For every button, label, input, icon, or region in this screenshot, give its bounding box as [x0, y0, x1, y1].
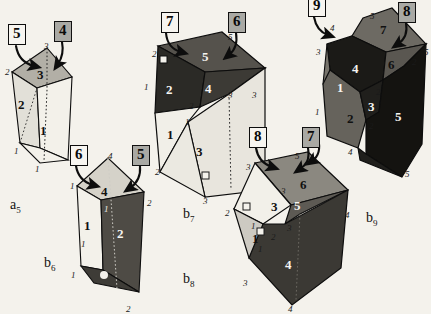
b6-edge-number-5: 1 — [71, 271, 76, 280]
b9-edge-number-0: 5 — [370, 12, 375, 21]
b6-face-number-2: 2 — [117, 227, 124, 240]
b8-edge-number-9: 3 — [243, 279, 248, 288]
b8-face-number-4: 4 — [285, 258, 292, 271]
b8-edge-number-0: 5 — [295, 152, 300, 161]
b8-edge-number-3: 2 — [225, 209, 230, 218]
a5-face-number-1: 1 — [40, 124, 47, 137]
b7-edge-number-6: 1 — [185, 118, 190, 127]
b7-face-number-5: 5 — [202, 50, 209, 63]
a5-edge-number-3: 1 — [35, 165, 40, 174]
a5-face-number-3: 3 — [37, 68, 44, 81]
b7-edge-number-1: 2 — [152, 50, 157, 59]
b7-face-number-3: 3 — [196, 145, 203, 158]
b9-face-number-5: 5 — [395, 110, 402, 123]
b8-edge-number-2: 3 — [281, 187, 286, 196]
b8-edge-number-7: 2 — [271, 233, 276, 242]
b8-edge-number-5: 3 — [287, 224, 292, 233]
b9-edge-number-3: 5 — [424, 48, 429, 57]
b8-face-number-6: 6 — [300, 178, 307, 191]
b7-edge-number-7: 2 — [155, 168, 160, 177]
b7-edge-number-0: 5 — [228, 33, 233, 42]
b8-face-number-3: 3 — [271, 200, 278, 213]
a5-face-number-2: 2 — [18, 98, 25, 111]
b9-face-number-3: 3 — [368, 100, 375, 113]
b6-face-number-1: 1 — [84, 219, 91, 232]
b8-edge-number-10: 4 — [288, 305, 293, 314]
b7-face-number-2: 2 — [166, 83, 173, 96]
b9-edge-number-7: 2 — [369, 122, 374, 131]
b9-face-number-1: 1 — [337, 81, 344, 94]
b9-face-number-2: 2 — [347, 112, 354, 125]
b8-edge-number-6: 1 — [251, 222, 256, 231]
b9-edge-number-4: 2 — [412, 58, 417, 67]
a5-edge-number-1: 2 — [5, 68, 10, 77]
b6-edge-number-6: 2 — [126, 305, 131, 314]
b6-edge-number-3: 1 — [104, 205, 109, 214]
b6-edge-number-2: 2 — [147, 199, 152, 208]
b9-edge-number-1: 4 — [330, 24, 335, 33]
b7-edge-number-3: 3 — [228, 91, 233, 100]
b9-edge-number-5: 2 — [376, 88, 381, 97]
b7-face-number-4: 4 — [205, 82, 212, 95]
b6-edge-number-1: 1 — [70, 182, 75, 191]
b9-face-number-7: 7 — [380, 23, 387, 36]
a5-edge-number-0: 3 — [44, 42, 49, 51]
b7-face-number-1: 1 — [167, 128, 174, 141]
b8-edge-number-4: 4 — [345, 211, 350, 220]
b6-edge-number-0: 4 — [108, 152, 113, 161]
b9-edge-number-9: 5 — [405, 170, 410, 179]
b8-edge-number-8: 1 — [258, 245, 263, 254]
b9-edge-number-2: 3 — [316, 48, 321, 57]
b6-edge-number-4: 1 — [81, 240, 86, 249]
b7-edge-number-5: 2 — [189, 102, 194, 111]
b9-face-number-4: 4 — [352, 62, 359, 75]
b9-face-number-6: 6 — [388, 58, 395, 71]
b9-edge-number-6: 1 — [315, 108, 320, 117]
a5-edge-number-2: 1 — [14, 147, 19, 156]
b8-edge-number-1: 3 — [246, 163, 251, 172]
b6-face-number-4: 4 — [101, 185, 108, 198]
b9-edge-number-8: 4 — [348, 148, 353, 157]
b7-edge-number-2: 1 — [144, 83, 149, 92]
b7-edge-number-8: 3 — [203, 197, 208, 206]
b8-face-number-5: 5 — [294, 199, 301, 212]
b7-edge-number-4: 3 — [252, 91, 257, 100]
